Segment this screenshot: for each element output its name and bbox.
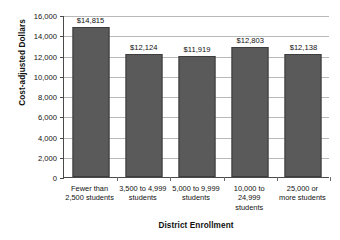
y-axis-label: 10,000 <box>34 72 57 81</box>
y-axis-label: 2,000 <box>38 153 57 162</box>
y-axis-label: 12,000 <box>34 52 57 61</box>
bar <box>232 47 269 177</box>
x-axis-tick <box>224 177 225 181</box>
bar <box>125 54 162 177</box>
bar-group: $12,803 <box>224 16 277 177</box>
plot-area: 02,0004,0006,0008,00010,00012,00014,0001… <box>63 16 329 178</box>
x-axis-tick <box>277 177 278 181</box>
x-axis-tick <box>117 177 118 181</box>
y-axis-label: 14,000 <box>34 32 57 41</box>
x-axis-tick <box>330 177 331 181</box>
bar-group: $12,138 <box>277 16 330 177</box>
y-axis-label: 4,000 <box>38 133 57 142</box>
x-axis-title: District Enrollment <box>63 221 329 230</box>
bar <box>285 54 322 177</box>
bar-value-label: $11,919 <box>184 45 211 54</box>
bar-value-label: $14,815 <box>77 16 104 25</box>
y-axis-label: 8,000 <box>38 93 57 102</box>
x-axis-category-line: students <box>217 203 282 212</box>
y-axis-title: Cost-adjusted Dollars <box>18 0 27 133</box>
y-axis-label: 0 <box>53 174 57 183</box>
bar-value-label: $12,124 <box>130 43 157 52</box>
x-axis-category-line: more students <box>270 193 335 202</box>
y-axis-label: 6,000 <box>38 113 57 122</box>
bar-value-label: $12,803 <box>236 36 263 45</box>
y-axis-label: 16,000 <box>34 12 57 21</box>
x-axis-category-labels: Fewer than2,500 students3,500 to 4,999st… <box>63 184 329 220</box>
bars-layer: $14,815$12,124$11,919$12,803$12,138 <box>64 16 329 177</box>
x-axis-tick <box>170 177 171 181</box>
y-axis-tick <box>60 178 64 179</box>
x-axis-category-line: 25,000 or <box>270 184 335 193</box>
x-axis-category-label: 25,000 ormore students <box>270 184 335 203</box>
bar-chart: Cost-adjusted Dollars 02,0004,0006,0008,… <box>0 0 340 240</box>
bar-group: $11,919 <box>170 16 223 177</box>
bar <box>178 56 215 177</box>
bar-group: $14,815 <box>64 16 117 177</box>
bar-group: $12,124 <box>117 16 170 177</box>
bar-value-label: $12,138 <box>290 43 317 52</box>
bar <box>72 27 109 177</box>
